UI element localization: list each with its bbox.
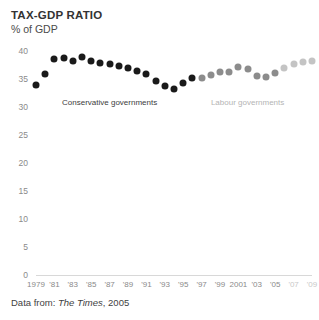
data-point [143, 70, 150, 77]
y-axis-tick-label: 15 [6, 186, 28, 196]
x-axis-tick-label: 2001 [229, 280, 247, 289]
x-axis-tick-label: '07 [288, 280, 298, 289]
data-point [253, 72, 260, 79]
source-publication: The Times [58, 297, 103, 308]
y-axis-tick-label: 10 [6, 214, 28, 224]
x-axis-tick-label: '09 [307, 280, 317, 289]
x-axis-tick-label: '93 [160, 280, 170, 289]
x-axis-tick-label: '85 [86, 280, 96, 289]
source-note: Data from: The Times, 2005 [11, 297, 129, 308]
data-point [299, 59, 306, 66]
x-axis-tick-label: '87 [104, 280, 114, 289]
data-point [235, 63, 242, 70]
x-axis-tick-label: '83 [68, 280, 78, 289]
source-year: , 2005 [103, 297, 129, 308]
data-point [88, 58, 95, 65]
x-axis-tick-label: '03 [252, 280, 262, 289]
data-point [290, 60, 297, 67]
y-axis-tick-label: 0 [6, 270, 28, 280]
data-point [97, 60, 104, 67]
data-point [180, 79, 187, 86]
data-point [171, 86, 178, 93]
y-axis-tick-label: 40 [6, 46, 28, 56]
y-axis-tick-label: 5 [6, 242, 28, 252]
source-prefix: Data from: [11, 297, 55, 308]
y-axis-tick-label: 30 [6, 102, 28, 112]
y-axis-tick-label: 25 [6, 130, 28, 140]
data-point [79, 53, 86, 60]
data-point [134, 68, 141, 75]
y-axis-tick-label: 20 [6, 158, 28, 168]
data-point [161, 83, 168, 90]
data-point [244, 65, 251, 72]
data-point [60, 55, 67, 62]
x-axis-line [36, 275, 312, 276]
data-point [152, 77, 159, 84]
x-axis-tick-label: 1979 [27, 280, 45, 289]
x-axis-tick-label: '05 [270, 280, 280, 289]
data-point [207, 71, 214, 78]
scatter-plot: 05101520253035401979'81'83'85'87'89'91'9… [0, 0, 319, 320]
x-axis-tick-label: '81 [49, 280, 59, 289]
data-point [226, 69, 233, 76]
x-axis-tick-label: '99 [215, 280, 225, 289]
data-point [42, 70, 49, 77]
x-axis-tick-label: '95 [178, 280, 188, 289]
x-axis-tick-label: '97 [196, 280, 206, 289]
y-axis-tick-label: 35 [6, 74, 28, 84]
data-point [51, 55, 58, 62]
data-point [198, 74, 205, 81]
x-axis-tick-label: '89 [123, 280, 133, 289]
data-point [115, 62, 122, 69]
data-point [272, 70, 279, 77]
data-point [125, 65, 132, 72]
data-point [309, 57, 316, 64]
data-point [263, 73, 270, 80]
data-point [189, 75, 196, 82]
series-annotation-labour: Labour governments [211, 98, 284, 107]
series-annotation-conservative: Conservative governments [62, 98, 157, 107]
x-axis-tick-label: '91 [141, 280, 151, 289]
data-point [281, 65, 288, 72]
data-point [69, 58, 76, 65]
data-point [33, 82, 40, 89]
data-point [106, 61, 113, 68]
data-point [217, 69, 224, 76]
chart-page: TAX-GDP RATIO % of GDP 05101520253035401… [0, 0, 319, 320]
